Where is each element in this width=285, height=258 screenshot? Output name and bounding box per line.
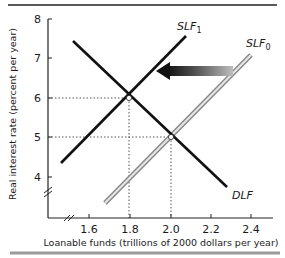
y-tick-label: 7	[34, 52, 41, 65]
slf1-curve	[61, 36, 186, 163]
y-tick-labels: 8 7 6 5 4	[34, 13, 41, 184]
slf0-label: SLF0	[246, 37, 271, 52]
x-tick-labels: 1.6 1.8 2.0 2.2 2.4	[80, 223, 260, 236]
x-tick-label: 2.4	[242, 223, 260, 236]
loanable-funds-chart: 8 7 6 5 4 1.6 1.8 2.0 2.2 2.4 Loanable f…	[0, 0, 285, 258]
x-tick-label: 2.0	[162, 223, 180, 236]
x-tick-label: 1.8	[121, 223, 139, 236]
slf1-label: SLF1	[177, 20, 202, 35]
equilibrium-point	[126, 95, 131, 100]
x-tick-label: 2.2	[202, 223, 220, 236]
x-tick-label: 1.6	[80, 223, 98, 236]
y-tick-label: 8	[34, 13, 41, 26]
x-axis-title: Loanable funds (trillions of 2000 dollar…	[43, 237, 278, 248]
y-axis-title: Real interest rate (percent per year)	[7, 28, 18, 200]
slf0-curve	[105, 55, 251, 203]
shift-left-arrow-icon	[156, 62, 233, 80]
equilibrium-point	[168, 134, 173, 139]
y-tick-label: 6	[34, 92, 41, 105]
y-tick-label: 5	[34, 131, 41, 144]
dlf-label: DLF	[232, 189, 254, 202]
y-tick-label: 4	[34, 171, 41, 184]
dlf-curve	[73, 41, 227, 187]
